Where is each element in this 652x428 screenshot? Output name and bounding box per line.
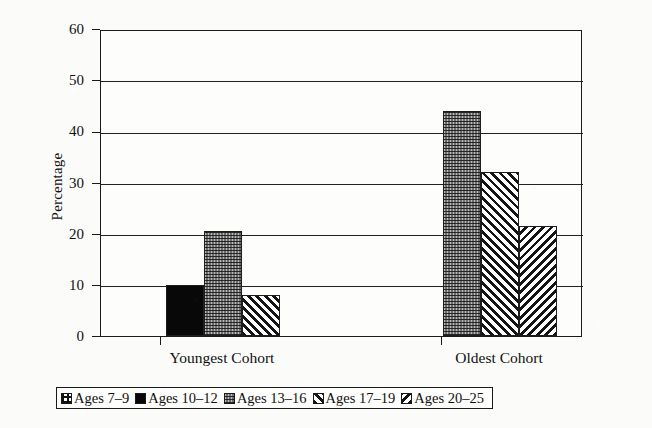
legend-swatch-icon (135, 393, 146, 404)
legend-item: Ages 10–12 (134, 388, 223, 408)
x-axis-category-label: Youngest Cohort (122, 349, 322, 367)
y-axis-tick-label: 0 (38, 329, 84, 344)
legend-swatch-icon (313, 393, 324, 404)
y-axis-tick-label: 50 (38, 73, 84, 88)
y-axis-tick-label: 40 (38, 124, 84, 139)
bar (204, 231, 242, 336)
x-axis-category-label: Oldest Cohort (399, 349, 599, 367)
y-axis-tick-mark (92, 80, 100, 81)
legend: Ages 7–9Ages 10–12Ages 13–16Ages 17–19Ag… (56, 387, 493, 409)
bar (166, 285, 204, 336)
legend-swatch-icon (61, 393, 72, 404)
bar (481, 172, 519, 336)
y-axis-tick-mark (92, 285, 100, 286)
y-axis-tick-mark (92, 336, 100, 337)
legend-item: Ages 13–16 (223, 388, 312, 408)
y-axis-tick-mark (92, 234, 100, 235)
legend-item: Ages 17–19 (312, 388, 401, 408)
legend-label: Ages 10–12 (148, 391, 218, 406)
gridline (101, 133, 583, 134)
legend-label: Ages 17–19 (326, 391, 396, 406)
y-axis-tick-label: 60 (38, 22, 84, 37)
x-axis-tick-mark (441, 337, 442, 345)
bar (242, 295, 280, 336)
y-axis-tick-label: 10 (38, 278, 84, 293)
legend-label: Ages 20–25 (414, 391, 484, 406)
legend-swatch-icon (224, 393, 235, 404)
bar-chart: Percentage 0102030405060 Youngest Cohort… (0, 0, 652, 428)
y-axis-tick-label: 20 (38, 227, 84, 242)
y-axis-tick-mark (92, 29, 100, 30)
legend-item: Ages 7–9 (60, 388, 134, 408)
bar (519, 226, 557, 336)
y-axis-tick-mark (92, 132, 100, 133)
y-axis-tick-label: 30 (38, 176, 84, 191)
y-axis-tick-mark (92, 183, 100, 184)
legend-label: Ages 13–16 (237, 391, 307, 406)
x-axis-tick-mark (160, 337, 161, 345)
legend-swatch-icon (401, 393, 412, 404)
plot-area (100, 30, 582, 337)
bar (443, 111, 481, 336)
legend-item: Ages 20–25 (400, 388, 489, 408)
gridline (101, 81, 583, 82)
legend-label: Ages 7–9 (74, 391, 129, 406)
